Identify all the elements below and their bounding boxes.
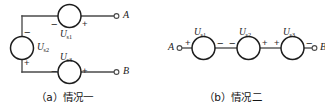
polarity-us1-left: + <box>185 38 191 48</box>
source-symbol-us1 <box>192 37 215 60</box>
polarity-us2-top: − <box>24 27 30 38</box>
polarity-us3-left: − <box>51 66 57 77</box>
source-symbol-us1 <box>58 5 81 28</box>
terminal-label-a: A <box>123 10 129 20</box>
terminal-label-b: B <box>320 42 325 52</box>
source-symbol-us3 <box>58 61 81 84</box>
polarity-us1-right: − <box>217 38 223 49</box>
source-label-us2: Us2 <box>37 43 49 53</box>
source-label-us1: Us1 <box>194 28 206 38</box>
terminal-dot-b <box>312 46 317 51</box>
terminal-label-a: A <box>168 42 174 52</box>
figure-root: Us1 − + Us2 − + Us3 − + A B （a）情况一 <box>0 0 325 110</box>
terminal-label-b: B <box>123 66 129 76</box>
polarity-us3-left: + <box>274 38 280 48</box>
panel-a-caption: （a）情况一 <box>36 89 94 104</box>
source-label-us3: Us3 <box>60 53 72 63</box>
source-symbol-us2 <box>237 37 260 60</box>
source-symbol-us2 <box>11 37 34 60</box>
terminal-dot-b <box>114 70 119 75</box>
source-label-us1: Us1 <box>60 30 72 40</box>
panel-b-caption: （b）情况二 <box>204 89 262 104</box>
source-label-us3: Us3 <box>283 28 295 38</box>
source-symbol-us3 <box>281 37 304 60</box>
source-label-us2: Us2 <box>239 28 251 38</box>
terminal-dot-a <box>177 46 182 51</box>
polarity-us2-bottom: + <box>24 58 30 68</box>
polarity-us2-left: − <box>229 38 235 49</box>
circuit-panel-a: Us1 − + Us2 − + Us3 − + A B （a）情况一 <box>0 0 162 110</box>
terminal-dot-a <box>114 14 119 19</box>
circuit-panel-b: Us1 + − Us2 − + Us3 + − A B （b）情况二 <box>162 0 325 110</box>
polarity-us1-left: − <box>51 19 57 30</box>
polarity-us3-right: − <box>306 38 312 49</box>
polarity-us3-right: + <box>82 66 88 76</box>
polarity-us2-right: + <box>262 38 268 48</box>
polarity-us1-right: + <box>82 19 88 29</box>
